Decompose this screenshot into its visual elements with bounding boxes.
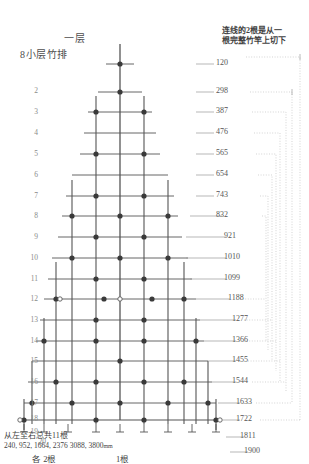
bracket-ticks	[292, 54, 300, 95]
measurement-label: 1188	[228, 293, 244, 302]
row-number: 11	[22, 274, 38, 283]
measurement-label: 654	[216, 169, 228, 178]
measurement-label: 1455	[232, 355, 248, 364]
measurement-label: 1633	[236, 397, 252, 406]
row-number: 5	[22, 149, 38, 158]
footer-unit: mm	[103, 443, 112, 449]
measurement-label: 476	[216, 127, 228, 136]
measurement-label: 120	[216, 58, 228, 67]
measurement-label: 1099	[224, 273, 240, 282]
measurement-label: 1544	[232, 376, 248, 385]
footer-total-poles: 从左至右总共11根	[4, 429, 68, 440]
row-number: 6	[22, 170, 38, 179]
row-number: 9	[22, 232, 38, 241]
footer-width-values: 240, 952, 1664, 2376 3088, 3800	[4, 441, 103, 450]
measurement-label: 298	[216, 86, 228, 95]
measurement-label: 1010	[224, 252, 240, 261]
measurement-label: 832	[216, 210, 228, 219]
row-number: 3	[22, 107, 38, 116]
row-number: 16	[22, 377, 38, 386]
measurement-label: 387	[216, 106, 228, 115]
measurement-label: 1900	[244, 446, 260, 455]
measurement-label: 1722	[236, 414, 252, 423]
row-number: 18	[22, 414, 38, 423]
row-number: 4	[22, 128, 38, 137]
footer-width-series: 240, 952, 1664, 2376 3088, 3800mm	[4, 441, 113, 450]
row-number: 2	[22, 86, 38, 95]
row-number: 10	[22, 253, 38, 262]
row-number: 17	[22, 398, 38, 407]
measurement-label: 921	[224, 231, 236, 240]
pairing-brackets	[240, 57, 300, 420]
row-number: 8	[22, 211, 38, 220]
row-number: 7	[22, 191, 38, 200]
measurement-label: 1366	[232, 335, 248, 344]
row-number: 12	[22, 294, 38, 303]
row-number: 13	[22, 315, 38, 324]
measurement-label: 1811	[240, 431, 256, 440]
footer-count-left: 各 2根	[32, 452, 56, 464]
row-number: 15	[22, 356, 38, 365]
measurement-label: 565	[216, 148, 228, 157]
row-number: 14	[22, 336, 38, 345]
measurement-label: 743	[216, 190, 228, 199]
footer-count-right: 1根	[116, 452, 129, 464]
measurement-label: 1277	[232, 314, 248, 323]
